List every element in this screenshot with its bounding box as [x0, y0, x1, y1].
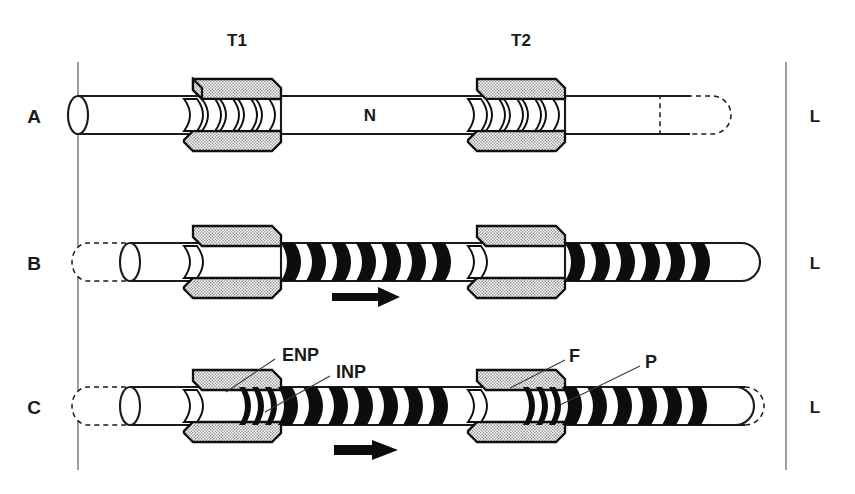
terminal-label-t2: T2: [511, 31, 531, 50]
diagram-canvas: A T1 T2 N L: [0, 0, 855, 494]
right-label-l-a: L: [810, 107, 820, 126]
row-b-left-open-end: [120, 243, 140, 281]
ring-t2-row-a: [468, 79, 565, 151]
row-c-left-open-end: [120, 387, 140, 425]
row-c-right-cap: [700, 387, 754, 425]
ring-t1-row-a-arcs: [184, 99, 275, 131]
row-label-a: A: [27, 106, 41, 127]
callout-label-f: F: [569, 346, 580, 366]
row-a-dashed-tail: [660, 96, 731, 134]
ring-t2-row-a-arcs: [468, 99, 559, 131]
diagram-figure: A T1 T2 N L: [0, 0, 855, 494]
callout-label-p: P: [645, 352, 657, 372]
right-label-l-b: L: [810, 254, 820, 273]
callout-label-enp: ENP: [282, 345, 319, 365]
callout-label-inp: INP: [336, 362, 366, 382]
ring-t1-row-a: [184, 79, 281, 151]
segment-label-n: N: [364, 106, 376, 125]
row-a-left-open-end: [68, 96, 88, 134]
row-label-b: B: [27, 253, 41, 274]
row-label-c: C: [27, 397, 41, 418]
right-label-l-c: L: [810, 398, 820, 417]
terminal-label-t1: T1: [227, 31, 247, 50]
